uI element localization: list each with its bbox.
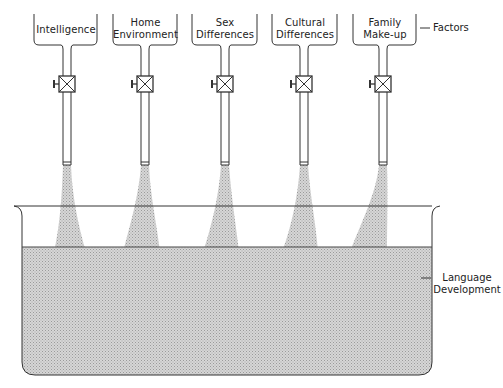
stream-cultural-differences bbox=[282, 165, 318, 252]
label-sex-differences: Sex Differences bbox=[192, 17, 258, 41]
stream-home-environment bbox=[123, 165, 160, 252]
label-line: Development bbox=[432, 284, 502, 296]
factors-label: Factors bbox=[433, 22, 469, 34]
label-line: Cultural bbox=[272, 17, 338, 29]
label-line: Sex bbox=[192, 17, 258, 29]
language-development-diagram bbox=[0, 0, 503, 388]
label-line: Family bbox=[353, 17, 417, 29]
label-line: Environment bbox=[113, 29, 178, 41]
label-line: Intelligence bbox=[34, 24, 98, 36]
label-family-make-up: Family Make-up bbox=[353, 17, 417, 41]
beaker-liquid bbox=[22, 247, 432, 377]
label-line: Language bbox=[432, 272, 502, 284]
stream-intelligence bbox=[54, 165, 86, 252]
label-line: Differences bbox=[192, 29, 258, 41]
stream-sex-differences bbox=[203, 165, 239, 252]
label-home-environment: Home Environment bbox=[113, 17, 178, 41]
valve-sex-differences bbox=[212, 76, 233, 92]
valve-intelligence bbox=[54, 76, 75, 92]
factor-streams bbox=[54, 165, 387, 252]
stream-family-make-up bbox=[350, 165, 387, 252]
label-line: Differences bbox=[272, 29, 338, 41]
valve-cultural-differences bbox=[291, 76, 312, 92]
valve-family-make-up bbox=[370, 76, 391, 92]
label-cultural-differences: Cultural Differences bbox=[272, 17, 338, 41]
label-intelligence: Intelligence bbox=[34, 24, 98, 36]
language-development-label: Language Development bbox=[432, 272, 502, 296]
label-line: Make-up bbox=[353, 29, 417, 41]
label-line: Home bbox=[113, 17, 178, 29]
valve-home-environment bbox=[132, 76, 153, 92]
